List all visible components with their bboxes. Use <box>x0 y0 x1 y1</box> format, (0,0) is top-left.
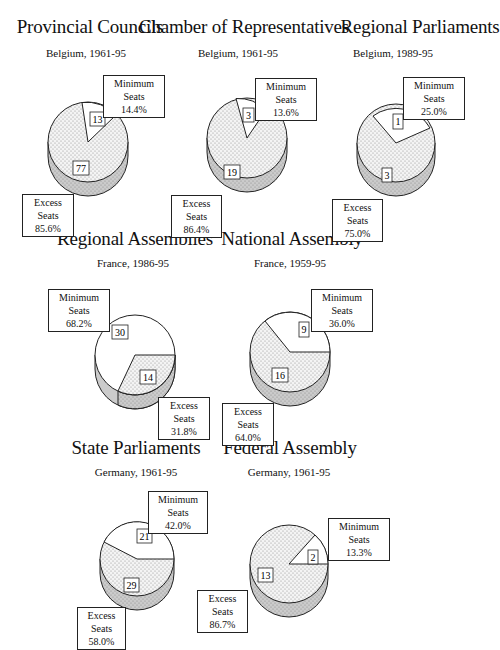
value-minimum: 2 <box>311 552 316 563</box>
label-text: Excess Seats <box>226 405 270 431</box>
label-minimum-regional-assemblies: Minimum Seats 68.2% <box>48 289 110 332</box>
label-percent: 36.0% <box>315 317 369 330</box>
label-excess-national-assembly: Excess Seats 64.0% <box>222 403 274 446</box>
label-text: Minimum Seats <box>107 77 161 103</box>
label-excess-state-parliaments: Excess Seats 58.0% <box>77 607 126 650</box>
pie-federal-assembly: 2 13 <box>250 525 328 617</box>
label-percent: 85.6% <box>26 222 70 235</box>
label-percent: 13.6% <box>259 106 313 119</box>
label-percent: 14.4% <box>107 103 161 116</box>
label-percent: 64.0% <box>226 431 270 444</box>
pie-state-parliaments: 21 29 <box>100 522 174 610</box>
label-percent: 42.0% <box>152 519 204 532</box>
value-excess: 14 <box>143 372 153 383</box>
value-excess: 16 <box>275 370 285 381</box>
label-text: Excess Seats <box>336 201 379 227</box>
label-minimum-state-parliaments: Minimum Seats 42.0% <box>148 491 208 534</box>
label-excess-federal-assembly: Excess Seats 86.7% <box>197 590 248 633</box>
label-percent: 68.2% <box>52 317 106 330</box>
value-excess: 13 <box>261 570 271 581</box>
value-minimum: 13 <box>93 114 103 125</box>
value-excess: 77 <box>76 163 86 174</box>
label-text: Excess Seats <box>81 609 122 635</box>
value-minimum: 1 <box>396 116 401 127</box>
label-percent: 58.0% <box>81 635 122 648</box>
label-minimum-chamber: Minimum Seats 13.6% <box>255 78 317 121</box>
value-excess: 3 <box>385 170 390 181</box>
label-percent: 86.4% <box>175 223 218 236</box>
label-text: Minimum Seats <box>52 291 106 317</box>
label-text: Excess Seats <box>201 592 244 618</box>
value-minimum: 9 <box>302 324 307 335</box>
label-excess-regional-parliaments: Excess Seats 75.0% <box>332 199 383 242</box>
label-text: Minimum Seats <box>332 520 386 546</box>
label-excess-regional-assemblies: Excess Seats 31.8% <box>158 397 210 440</box>
label-minimum-regional-parliaments: Minimum Seats 25.0% <box>403 77 465 120</box>
label-text: Minimum Seats <box>315 291 369 317</box>
value-excess: 29 <box>127 580 137 591</box>
label-percent: 75.0% <box>336 227 379 240</box>
label-percent: 13.3% <box>332 546 386 559</box>
label-text: Minimum Seats <box>152 493 204 519</box>
label-text: Excess Seats <box>162 399 206 425</box>
label-text: Minimum Seats <box>407 79 461 105</box>
label-percent: 86.7% <box>201 618 244 631</box>
label-percent: 31.8% <box>162 425 206 438</box>
label-text: Minimum Seats <box>259 80 313 106</box>
label-percent: 25.0% <box>407 105 461 118</box>
label-minimum-provincial-councils: Minimum Seats 14.4% <box>103 75 165 118</box>
value-minimum: 30 <box>115 327 125 338</box>
value-excess: 19 <box>227 167 237 178</box>
label-text: Excess Seats <box>175 197 218 223</box>
label-minimum-national-assembly: Minimum Seats 36.0% <box>311 289 373 332</box>
value-minimum: 3 <box>246 110 251 121</box>
label-excess-chamber: Excess Seats 86.4% <box>171 195 222 238</box>
label-minimum-federal-assembly: Minimum Seats 13.3% <box>328 518 390 561</box>
label-excess-provincial-councils: Excess Seats 85.6% <box>22 194 74 237</box>
label-text: Excess Seats <box>26 196 70 222</box>
